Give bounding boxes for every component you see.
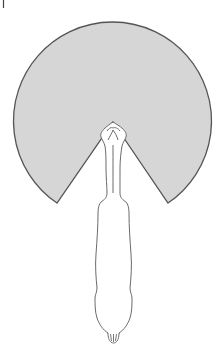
head-detail: [108, 333, 119, 343]
person-outline: [95, 122, 132, 337]
reach-diagram: [0, 0, 219, 356]
